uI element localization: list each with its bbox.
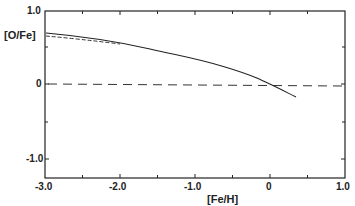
y-axis-label: [O/Fe] xyxy=(4,29,36,41)
x-tick-label-0: 0 xyxy=(266,181,272,192)
x-axis-label: [Fe/H] xyxy=(207,193,238,205)
x-ticks xyxy=(83,11,308,178)
plot-frame xyxy=(45,11,345,178)
y-tick-label-neg1: -1.0 xyxy=(26,153,43,164)
solid-model-curve xyxy=(46,33,296,97)
chart-plot xyxy=(0,0,355,206)
x-tick-label-neg2: -2.0 xyxy=(109,181,126,192)
y-ticks xyxy=(45,47,345,159)
x-tick-label-1: 1.0 xyxy=(336,181,350,192)
zero-reference-line xyxy=(48,84,342,86)
x-tick-label-neg1: -1.0 xyxy=(184,181,201,192)
y-tick-label-0: 0 xyxy=(36,78,42,89)
x-tick-label-neg3: -3.0 xyxy=(35,181,52,192)
y-tick-label-1: 1.0 xyxy=(27,5,41,16)
